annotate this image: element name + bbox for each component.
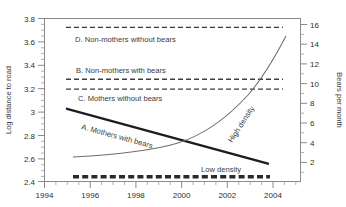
- y2-tick-label: 12: [310, 60, 319, 69]
- x-tick-label: 2000: [173, 191, 191, 200]
- series-label-b: B. Non-mothers with bears: [76, 66, 166, 75]
- x-tick-label: 1998: [127, 191, 145, 200]
- x-tick-label: 1994: [36, 191, 54, 200]
- left-y-tick-labels: 3.8 3.6 3.4 3.2 3 2.8 2.6 2.4: [24, 15, 36, 187]
- y-tick-label: 2.4: [24, 178, 36, 187]
- series-label-d: D. Non-mothers without bears: [75, 35, 176, 44]
- y-axis-title: Log distance to road: [4, 66, 13, 134]
- x-tick-label: 2004: [264, 191, 282, 200]
- y2-tick-label: 4: [310, 139, 315, 148]
- y-tick-label: 2.6: [24, 155, 36, 164]
- y2-tick-label: 10: [310, 80, 319, 89]
- y-tick-label: 3.2: [24, 85, 36, 94]
- y2-axis-title: Bears per month: [335, 72, 344, 127]
- x-minor-ticks: [56, 182, 296, 186]
- series-label-c: C. Mothers without bears: [78, 94, 163, 103]
- y2-tick-label: 2: [310, 158, 315, 167]
- y-tick-label: 3.6: [24, 38, 36, 47]
- right-y-tick-labels: 16 14 12 10 8 6 4 2: [310, 21, 319, 168]
- chart-svg: 3.8 3.6 3.4 3.2 3 2.8 2.6 2.4 16 14 12 1…: [0, 0, 346, 207]
- chart-figure: 3.8 3.6 3.4 3.2 3 2.8 2.6 2.4 16 14 12 1…: [0, 0, 346, 207]
- x-tick-label: 2002: [218, 191, 236, 200]
- x-tick-label: 1996: [81, 191, 99, 200]
- y-tick-label: 3: [31, 108, 36, 117]
- y2-tick-label: 6: [310, 119, 315, 128]
- y2-tick-label: 8: [310, 99, 315, 108]
- left-y-minor-ticks: [41, 24, 45, 176]
- y-tick-label: 3.8: [24, 15, 36, 24]
- x-tick-labels: 1994 1996 1998 2000 2002 2004: [36, 191, 283, 200]
- series-label-low-density: Low density: [201, 165, 241, 174]
- y2-tick-label: 14: [310, 40, 319, 49]
- y2-tick-label: 16: [310, 21, 319, 30]
- y-tick-label: 3.4: [24, 61, 36, 70]
- y-tick-label: 2.8: [24, 132, 36, 141]
- series-label-a: A. Mothers with bears: [80, 122, 153, 150]
- series-label-high-density: High density: [226, 104, 256, 144]
